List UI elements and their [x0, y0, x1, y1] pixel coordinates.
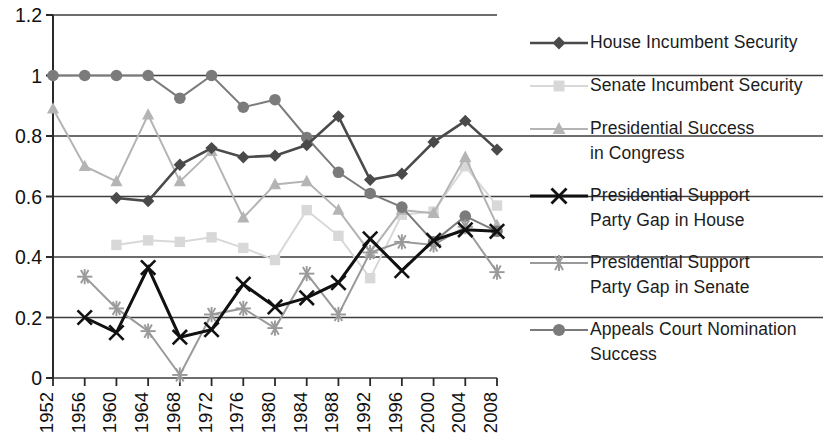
- data-point-diamond: [552, 36, 565, 49]
- data-point-star: [236, 301, 251, 316]
- y-tick-label: 0.8: [15, 125, 42, 147]
- x-tick-label: 1968: [163, 392, 184, 433]
- data-point-circle: [111, 70, 123, 82]
- x-tick-label: 1996: [385, 392, 406, 433]
- data-point-cross: [109, 325, 123, 339]
- data-point-square: [143, 235, 153, 245]
- legend-marker-square-icon: [528, 73, 590, 99]
- data-point-triangle: [459, 151, 471, 162]
- x-tick-label: 1972: [195, 392, 216, 433]
- data-point-star: [141, 324, 156, 339]
- data-point-circle: [364, 188, 376, 200]
- data-point-circle: [142, 70, 154, 82]
- legend-item-0[interactable]: House Incumbent Security: [528, 30, 823, 56]
- legend-item-3[interactable]: Presidential Support Party Gap in House: [528, 183, 823, 233]
- data-point-square: [492, 200, 502, 210]
- legend-item-2[interactable]: Presidential Success in Congress: [528, 116, 823, 166]
- data-point-square: [365, 273, 375, 283]
- data-point-star: [489, 265, 504, 280]
- data-point-star: [394, 234, 409, 249]
- x-tick-label: 1976: [226, 392, 247, 433]
- x-tick-label: 2008: [480, 392, 501, 433]
- data-point-triangle: [47, 102, 59, 113]
- data-point-star: [172, 367, 187, 382]
- x-tick-label: 2004: [448, 392, 469, 433]
- y-tick-label: 0: [31, 367, 42, 389]
- data-point-diamond: [364, 174, 376, 186]
- legend-marker-diamond-icon: [528, 30, 590, 56]
- data-point-circle: [396, 201, 408, 213]
- x-tick-label: 1956: [68, 392, 89, 433]
- x-tick-label: 1992: [353, 392, 374, 433]
- x-tick-label: 1960: [99, 392, 120, 433]
- legend-marker-triangle-icon: [528, 116, 590, 142]
- data-point-square: [175, 237, 185, 247]
- data-point-square: [238, 243, 248, 253]
- data-point-square: [554, 81, 565, 92]
- chart-container: 1.210.80.60.40.2019521956196019641968197…: [0, 0, 823, 439]
- legend-marker-circle-icon: [528, 317, 590, 343]
- data-point-circle: [237, 101, 249, 113]
- data-point-triangle: [301, 175, 313, 186]
- y-tick-label: 0.2: [15, 307, 42, 329]
- data-point-star: [267, 320, 282, 335]
- data-point-square: [206, 232, 216, 242]
- legend-label-3: Presidential Support Party Gap in House: [590, 183, 750, 233]
- data-point-diamond: [269, 149, 281, 161]
- legend-label-1: Senate Incumbent Security: [590, 73, 803, 98]
- series-2: [47, 102, 503, 257]
- series-line: [116, 116, 497, 201]
- data-point-triangle: [142, 108, 154, 119]
- x-tick-label: 2000: [417, 392, 438, 433]
- legend-marker-star-icon: [528, 250, 590, 276]
- x-tick-label: 1952: [36, 392, 57, 433]
- legend-item-1[interactable]: Senate Incumbent Security: [528, 73, 823, 99]
- data-point-circle: [269, 94, 281, 106]
- data-point-diamond: [237, 151, 249, 163]
- chart-legend: House Incumbent SecuritySenate Incumbent…: [528, 30, 823, 367]
- data-point-circle: [333, 167, 345, 179]
- y-tick-label: 0.6: [15, 186, 42, 208]
- legend-label-0: House Incumbent Security: [590, 30, 798, 55]
- data-point-cross: [141, 260, 155, 274]
- data-point-star: [551, 255, 567, 271]
- data-point-triangle: [79, 160, 91, 171]
- data-point-square: [302, 205, 312, 215]
- data-point-circle: [47, 70, 59, 82]
- data-point-square: [111, 240, 121, 250]
- data-point-circle: [206, 70, 218, 82]
- y-tick-label: 1.2: [15, 4, 42, 26]
- legend-marker-cross-icon: [528, 183, 590, 209]
- legend-item-4[interactable]: Presidential Support Party Gap in Senate: [528, 250, 823, 300]
- x-tick-label: 1988: [321, 392, 342, 433]
- data-point-diamond: [205, 142, 217, 154]
- data-point-square: [270, 255, 280, 265]
- data-point-cross: [331, 276, 345, 290]
- data-point-circle: [174, 92, 186, 104]
- x-tick-label: 1984: [290, 392, 311, 433]
- x-tick-label: 1964: [131, 392, 152, 433]
- data-point-cross: [236, 277, 250, 291]
- y-tick-label: 1: [31, 65, 42, 87]
- data-point-cross: [395, 263, 409, 277]
- data-point-diamond: [110, 192, 122, 204]
- legend-item-5[interactable]: Appeals Court Nomination Success: [528, 317, 823, 367]
- data-point-cross: [363, 232, 377, 246]
- data-point-circle: [79, 70, 91, 82]
- legend-label-5: Appeals Court Nomination Success: [590, 317, 797, 367]
- y-tick-label: 0.4: [15, 246, 42, 268]
- data-point-circle: [553, 324, 565, 336]
- legend-label-2: Presidential Success in Congress: [590, 116, 754, 166]
- x-tick-label: 1980: [258, 392, 279, 433]
- data-point-square: [333, 231, 343, 241]
- legend-label-4: Presidential Support Party Gap in Senate: [590, 250, 750, 300]
